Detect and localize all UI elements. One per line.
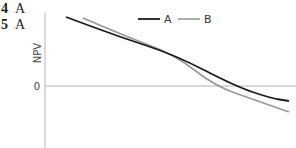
legend-b-label: B bbox=[204, 13, 212, 26]
zero-tick-label: 0 bbox=[34, 81, 40, 92]
legend-a-label: A bbox=[164, 13, 172, 26]
y-axis-label: NPV bbox=[32, 43, 43, 64]
npv-chart: NPV 0 A B bbox=[0, 0, 296, 148]
legend: A B bbox=[138, 13, 212, 26]
series-b-line bbox=[83, 18, 289, 112]
